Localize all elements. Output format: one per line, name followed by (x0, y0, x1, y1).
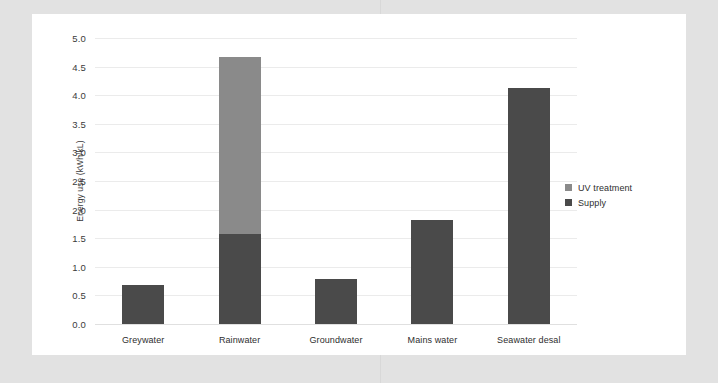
y-axis-tick-label: 0.0 (72, 319, 86, 330)
y-axis-tick-label: 2.0 (72, 204, 86, 215)
legend-label: UV treatment (578, 183, 632, 193)
bar-slot: Mains water (384, 38, 480, 324)
stacked-bar-chart: Energy use (kWh/kL) 5.04.54.03.53.02.52.… (32, 14, 686, 355)
x-axis-tick-label: Seawater desal (497, 335, 560, 345)
y-axis-tick-label: 1.0 (72, 261, 86, 272)
bar-slot: Seawater desal (481, 38, 577, 324)
legend-item[interactable]: UV treatment (565, 180, 632, 195)
y-axis-tick-label: 3.5 (72, 118, 86, 129)
bar-segment-supply[interactable] (508, 88, 550, 324)
chart-panel: Energy use (kWh/kL) 5.04.54.03.53.02.52.… (32, 14, 686, 355)
x-axis-tick-label: Greywater (122, 335, 164, 345)
plot-area: 5.04.54.03.53.02.52.01.51.00.50.0 Greywa… (95, 38, 577, 324)
bar-segment-supply[interactable] (411, 220, 453, 324)
bar-stack[interactable] (411, 220, 453, 324)
bar-slot: Greywater (95, 38, 191, 324)
bar-segment-supply[interactable] (315, 279, 357, 324)
y-axis-tick-label: 0.5 (72, 290, 86, 301)
legend-swatch-icon (565, 184, 572, 191)
chart-legend: UV treatmentSupply (565, 180, 632, 210)
gridline (95, 324, 577, 325)
legend-swatch-icon (565, 199, 572, 206)
y-axis-tick-label: 4.0 (72, 90, 86, 101)
y-axis-tick-label: 3.0 (72, 147, 86, 158)
bar-stack[interactable] (508, 88, 550, 324)
y-axis-tick-label: 4.5 (72, 61, 86, 72)
bar-segment-uv-treatment[interactable] (219, 57, 261, 234)
bar-segment-supply[interactable] (122, 285, 164, 324)
y-axis-tick-label: 1.5 (72, 233, 86, 244)
bar-slot: Groundwater (288, 38, 384, 324)
bar-slot: Rainwater (191, 38, 287, 324)
bar-stack[interactable] (219, 57, 261, 324)
legend-item[interactable]: Supply (565, 195, 632, 210)
y-axis-tick-label: 5.0 (72, 33, 86, 44)
bar-group: GreywaterRainwaterGroundwaterMains water… (95, 38, 577, 324)
x-axis-tick-label: Rainwater (219, 335, 260, 345)
bar-stack[interactable] (315, 279, 357, 324)
bar-segment-supply[interactable] (219, 234, 261, 324)
bar-stack[interactable] (122, 285, 164, 324)
y-axis-tick-label: 2.5 (72, 176, 86, 187)
legend-label: Supply (578, 198, 606, 208)
x-axis-tick-label: Mains water (408, 335, 458, 345)
x-axis-tick-label: Groundwater (309, 335, 362, 345)
